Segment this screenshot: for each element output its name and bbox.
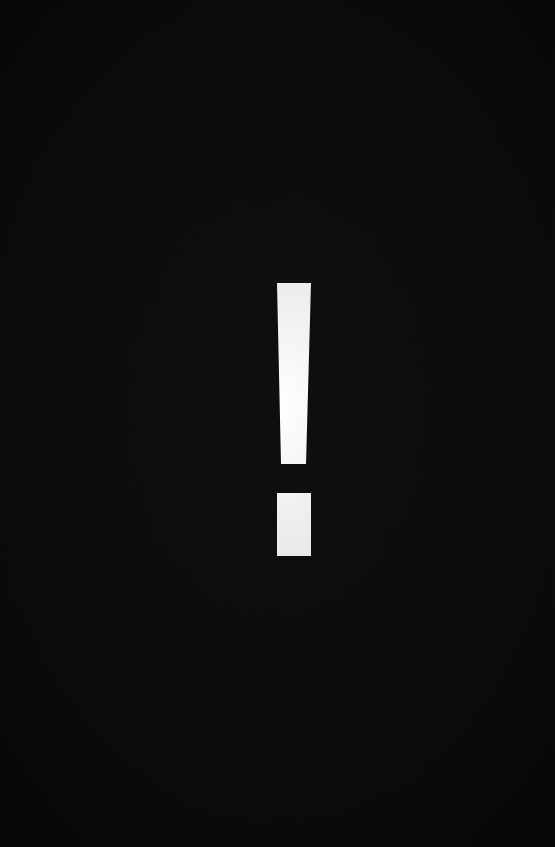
- exclamation-dot: [277, 493, 311, 556]
- exclamation-mark-glyph: [0, 0, 555, 847]
- exclamation-stem: [277, 283, 311, 464]
- exclamation-mark-svg: [0, 0, 555, 847]
- image-canvas: [0, 0, 555, 847]
